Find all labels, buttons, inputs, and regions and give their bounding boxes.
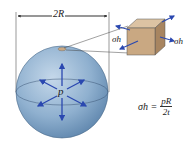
- stress-element-cube: [127, 19, 165, 55]
- pressure-label: p: [58, 85, 64, 97]
- stress-label-left: σh: [112, 34, 121, 44]
- formula-lhs: σh =: [138, 101, 157, 112]
- stress-label-right: σh: [174, 36, 183, 46]
- formula-denominator: 2t: [163, 107, 170, 117]
- diagram-canvas: [0, 0, 191, 150]
- hoop-stress-formula: σh = pR 2t: [138, 96, 172, 117]
- formula-numerator: pR: [160, 96, 172, 107]
- dimension-label: 2R: [52, 8, 65, 19]
- formula-fraction: pR 2t: [160, 96, 172, 117]
